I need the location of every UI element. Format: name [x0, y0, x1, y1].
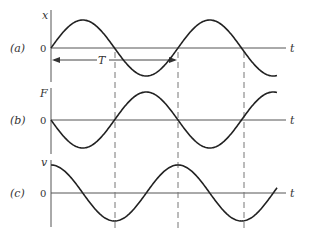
panel-a-var: x	[42, 9, 49, 22]
panel-a-zero: 0	[40, 43, 46, 54]
panel-c-zero: 0	[40, 188, 46, 199]
panel-b-t: t	[290, 114, 295, 127]
oscillation-diagram: (a) 0 x t T (b) 0 F t (c) 0 v t	[0, 0, 310, 241]
arrow-left-icon	[52, 57, 60, 63]
panel-b-zero: 0	[40, 115, 46, 126]
panel-b-var: F	[39, 87, 48, 100]
panel-a-tag: (a)	[10, 42, 25, 55]
panel-c-tag: (c)	[10, 187, 25, 200]
panel-b-tag: (b)	[10, 114, 26, 127]
panel-c-var: v	[41, 156, 48, 169]
panel-a-t: t	[290, 42, 295, 55]
panel-c-t: t	[290, 187, 295, 200]
